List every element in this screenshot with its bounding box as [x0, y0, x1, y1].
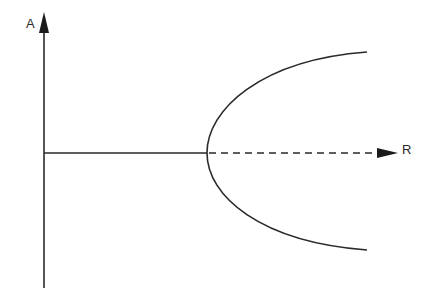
- bifurcation-diagram: A R: [0, 0, 432, 294]
- horizontal-axis-label: R: [402, 142, 411, 157]
- horizontal-axis-arrowhead-icon: [377, 148, 398, 158]
- upper-parabolic-branch: [207, 52, 367, 153]
- vertical-axis-label: A: [26, 16, 35, 31]
- lower-parabolic-branch: [207, 153, 367, 250]
- vertical-axis-arrowhead-icon: [39, 12, 49, 33]
